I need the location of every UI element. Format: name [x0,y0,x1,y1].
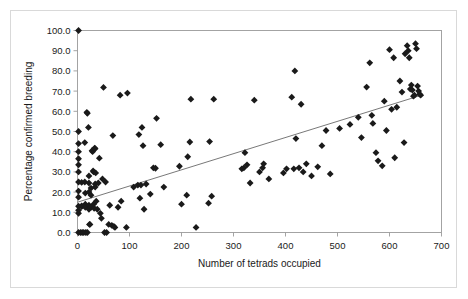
data-point-marker [141,206,148,213]
y-axis-tick-label: 40.0 [52,146,71,157]
data-point-marker [298,101,305,108]
data-point-marker [296,164,303,171]
x-axis-title: Number of tetrads occupied [198,258,321,269]
data-point-marker [251,97,258,104]
data-point-marker [412,40,419,47]
data-point-marker [363,84,370,91]
data-point-marker [373,149,380,156]
data-point-marker [153,115,160,122]
data-point-marker [413,45,420,52]
y-axis-tick-label: 20.0 [52,187,71,198]
data-point-marker [397,78,404,85]
data-point-marker [87,221,94,228]
data-point-marker [118,198,125,205]
data-point-marker [293,135,300,142]
y-axis-tick-label: 50.0 [52,126,71,137]
data-point-marker [139,124,146,131]
data-point-marker [75,27,82,34]
data-point-marker [75,140,82,147]
plot-canvas: 0.010.020.030.040.050.060.070.080.090.01… [0,0,468,299]
data-point-marker [109,132,116,139]
data-point-marker [140,142,147,149]
data-point-marker [291,68,298,75]
data-point-marker [115,204,122,211]
scatter-chart: 0.010.020.030.040.050.060.070.080.090.01… [0,0,468,299]
data-point-marker [303,160,310,167]
data-point-marker [75,161,82,168]
data-point-marker [81,139,88,146]
data-point-marker [106,202,113,209]
y-axis-tick-label: 70.0 [52,86,71,97]
data-point-marker [157,141,164,148]
data-point-marker [98,215,105,222]
data-point-marker [358,134,365,141]
data-point-marker [193,224,200,231]
data-point-marker [323,127,330,134]
y-axis-tick-label: 80.0 [52,65,71,76]
data-point-marker [368,112,375,119]
x-axis-tick-label: 100 [122,240,138,251]
data-point-marker [176,163,183,170]
data-point-marker [75,169,82,176]
data-point-marker [319,142,326,149]
data-point-marker [178,201,185,208]
data-point-marker [290,165,297,172]
data-point-marker [75,194,82,201]
data-point-marker [355,114,362,121]
data-point-marker [75,148,82,155]
data-point-marker [137,195,144,202]
data-point-marker [206,138,213,145]
x-axis-tick-label: 700 [434,240,450,251]
data-point-marker [369,120,376,127]
data-point-marker [208,193,215,200]
data-point-marker [183,192,190,199]
x-axis-tick-label: 600 [382,240,398,251]
data-point-marker [147,191,154,198]
data-point-marker [414,83,421,90]
figure-container: 0.010.020.030.040.050.060.070.080.090.01… [0,0,468,299]
data-point-marker [135,131,142,138]
data-point-marker [123,224,130,231]
data-point-marker [401,139,408,146]
x-axis: 0100200300400500600700 [75,233,450,251]
x-axis-tick-label: 0 [75,240,80,251]
x-axis-tick-label: 300 [226,240,242,251]
data-point-marker [184,153,191,160]
data-point-marker [406,54,413,61]
y-axis: 0.010.020.030.040.050.060.070.080.090.01… [47,25,78,238]
data-point-marker [366,59,373,66]
data-point-marker [75,128,82,135]
data-point-marker [314,163,321,170]
data-point-marker [308,173,315,180]
data-point-marker [210,96,217,103]
data-point-marker [96,155,103,162]
y-axis-title: Percentage confirmed breeding [23,62,34,202]
data-point-marker [381,98,388,105]
y-axis-tick-label: 30.0 [52,166,71,177]
data-point-marker [347,121,354,128]
data-point-marker [242,149,249,156]
x-axis-tick-label: 500 [330,240,346,251]
data-point-marker [386,46,393,53]
data-point-marker [85,124,92,131]
data-point-marker [265,176,272,183]
data-point-marker [288,94,295,101]
y-axis-tick-label: 0.0 [57,227,70,238]
data-point-marker [187,96,194,103]
data-point-marker [399,89,406,96]
x-axis-tick-label: 200 [174,240,190,251]
data-point-marker [391,154,398,161]
y-axis-tick-label: 10.0 [52,207,71,218]
trend-line [78,95,422,202]
data-point-marker [75,188,82,195]
x-axis-tick-label: 400 [278,240,294,251]
data-point-marker [100,84,107,91]
data-point-marker [160,184,167,191]
data-point-marker [336,125,343,132]
data-point-marker [186,139,193,146]
data-point-marker [205,200,212,207]
data-points [75,27,424,236]
data-point-marker [300,169,307,176]
data-point-marker [124,90,131,97]
data-point-marker [379,162,386,169]
